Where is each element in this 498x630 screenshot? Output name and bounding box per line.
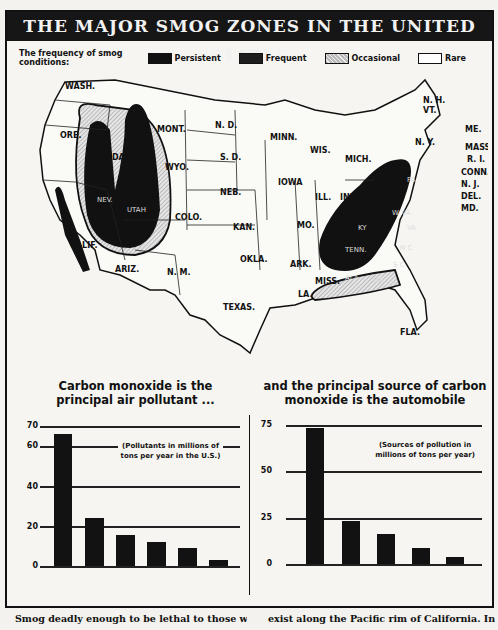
legend-label: Rare [445, 54, 466, 63]
note-line: tons per year in the U.S.) [118, 451, 223, 461]
right-chart-title-line2: monoxide is the automobile [255, 393, 495, 407]
legend-caption: The frequency of smog conditions: [19, 49, 134, 67]
svg-text:ALA.: ALA. [345, 274, 361, 282]
y-tick: 20 [20, 522, 38, 531]
occasional-swatch-icon [325, 53, 349, 64]
bar-generation-electricity [377, 534, 395, 564]
note-line: (Pollutants in millions of [118, 441, 223, 451]
svg-text:N. J.: N. J. [461, 180, 480, 189]
us-map-icon: WASH. ORE. CALIF. IDAHO NEV. UTAH ARIZ. … [15, 70, 488, 380]
svg-text:MICH.: MICH. [345, 155, 372, 164]
svg-text:N C: N C [400, 244, 412, 252]
figure-title: THE MAJOR SMOG ZONES IN THE UNITED STATE… [7, 12, 492, 41]
left-chart-title-line1: Carbon monoxide is the [28, 379, 243, 393]
bar-oxides-of-sulfur [85, 518, 104, 566]
svg-text:S. D.: S. D. [220, 153, 241, 162]
svg-text:FLA.: FLA. [400, 328, 420, 337]
rare-swatch-icon [418, 53, 442, 64]
bar-carbon-monoxide [54, 434, 72, 566]
svg-text:MASS.: MASS. [465, 143, 488, 152]
svg-text:MINN.: MINN. [270, 133, 297, 142]
y-tick: 0 [254, 559, 272, 568]
legend-label: Frequent [266, 54, 307, 63]
left-chart-note: (Pollutants in millions of tons per year… [118, 441, 223, 461]
bar-industry [342, 521, 360, 564]
svg-text:LA.: LA. [298, 290, 312, 299]
article-text-left: Smog deadly enough to be lethal to those… [15, 613, 247, 624]
left-chart-title: Carbon monoxide is the principal air pol… [28, 379, 243, 407]
svg-text:N. M.: N. M. [167, 268, 191, 277]
svg-text:MO.: MO. [297, 221, 315, 230]
bar-oxides-of-nitrogen [178, 548, 197, 566]
y-tick: 60 [20, 441, 38, 450]
y-tick: 70 [20, 421, 38, 430]
svg-text:NEV.: NEV. [97, 196, 113, 204]
y-tick: 25 [254, 513, 272, 522]
svg-text:N. H.: N. H. [423, 96, 445, 105]
svg-text:MD.: MD. [461, 204, 479, 213]
svg-text:MONT.: MONT. [157, 125, 186, 134]
y-tick: 0 [20, 561, 38, 570]
bar-autos [306, 428, 324, 564]
us-smog-map: WASH. ORE. CALIF. IDAHO NEV. UTAH ARIZ. … [15, 70, 488, 380]
svg-text:TENN.: TENN. [344, 246, 366, 254]
svg-text:KAN.: KAN. [233, 223, 255, 232]
svg-text:IDAHO: IDAHO [109, 153, 139, 162]
svg-text:GA: GA [373, 276, 383, 284]
note-line: millions of tons per year) [375, 450, 475, 460]
svg-text:VA: VA [407, 224, 416, 232]
bar-refuse-disposal [446, 557, 464, 564]
svg-text:CALIF.: CALIF. [70, 241, 97, 250]
svg-text:UTAH: UTAH [127, 206, 146, 214]
svg-text:R. I.: R. I. [467, 155, 485, 164]
legend: The frequency of smog conditions: Persis… [19, 51, 484, 65]
note-line: (Sources of pollution in [375, 440, 475, 450]
persistent-swatch-icon [148, 53, 172, 64]
x-axis [286, 564, 482, 566]
svg-text:ILL.: ILL. [315, 193, 331, 202]
svg-text:S C: S C [393, 261, 405, 269]
svg-text:WYO.: WYO. [165, 163, 189, 172]
legend-item-persistent: Persistent [148, 53, 221, 64]
bar-heating [412, 548, 430, 564]
svg-text:IND.: IND. [340, 193, 359, 202]
svg-text:TEXAS.: TEXAS. [223, 303, 255, 312]
gridline-70 [40, 426, 240, 428]
frequent-swatch-icon [239, 53, 263, 64]
svg-text:MISS.: MISS. [315, 277, 340, 286]
svg-text:IOWA: IOWA [278, 178, 303, 187]
svg-text:COLO.: COLO. [175, 213, 202, 222]
svg-text:KY: KY [358, 224, 367, 232]
svg-text:ME.: ME. [465, 125, 481, 134]
left-chart-title-line2: principal air pollutant ... [28, 393, 243, 407]
svg-text:ARK.: ARK. [290, 260, 312, 269]
svg-text:PA: PA [407, 176, 416, 184]
svg-text:OKLA.: OKLA. [240, 255, 267, 264]
legend-item-frequent: Frequent [239, 53, 307, 64]
y-tick: 75 [254, 420, 272, 429]
right-chart-title-line1: and the principal source of carbon [255, 379, 495, 393]
legend-item-occasional: Occasional [325, 53, 401, 64]
chart-divider [249, 415, 250, 595]
svg-text:WIS.: WIS. [310, 146, 331, 155]
legend-item-rare: Rare [418, 53, 466, 64]
legend-label: Persistent [175, 54, 221, 63]
bar-other-gases [209, 560, 228, 566]
svg-text:ARIZ.: ARIZ. [115, 265, 139, 274]
svg-text:NEB.: NEB. [220, 188, 241, 197]
svg-text:ORE.: ORE. [60, 131, 81, 140]
svg-text:DEL.: DEL. [461, 192, 481, 201]
svg-text:N. D.: N. D. [215, 121, 237, 130]
bar-particulate-matter [147, 542, 166, 566]
svg-text:VT.: VT. [423, 106, 436, 115]
bar-hydrocarbons [116, 535, 135, 566]
article-text-right: exist along the Pacific rim of Californi… [268, 613, 496, 624]
gridline-75 [286, 425, 482, 427]
svg-text:OHIO: OHIO [361, 185, 384, 194]
svg-text:CONN.: CONN. [461, 168, 488, 177]
svg-text:N. Y.: N. Y. [415, 138, 435, 147]
right-chart-note: (Sources of pollution in millions of ton… [375, 440, 475, 460]
x-axis [40, 566, 240, 568]
y-tick: 40 [20, 482, 38, 491]
svg-text:W VA: W VA [392, 209, 410, 217]
